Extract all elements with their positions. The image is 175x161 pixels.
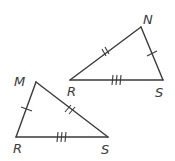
vertex-label-upper-N: N xyxy=(143,12,153,27)
vertex-label-upper-R: R xyxy=(67,84,76,99)
side-upper-RN xyxy=(70,27,141,80)
tick-mark-double-lower-MS xyxy=(65,105,75,114)
side-lower-MR xyxy=(16,82,36,137)
vertex-label-lower-R: R xyxy=(13,141,22,156)
vertex-label-upper-S: S xyxy=(155,85,163,100)
triangle-upper: N R S xyxy=(67,12,163,100)
congruent-triangles-diagram: N R S M R S xyxy=(0,0,175,161)
vertex-label-lower-M: M xyxy=(14,74,25,89)
triangle-lower: M R S xyxy=(13,74,109,157)
vertex-label-lower-S: S xyxy=(101,142,109,157)
